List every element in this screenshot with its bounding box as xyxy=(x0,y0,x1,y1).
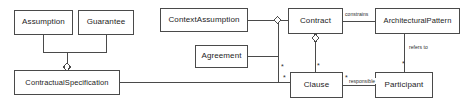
class-label-contract: Contract xyxy=(300,17,331,25)
aggregation-diamond-contract-clause xyxy=(312,34,319,42)
class-label-agreement: Agreement xyxy=(201,52,241,60)
edge-label-responsible: responsible xyxy=(348,78,376,84)
class-label-guarantee: Guarantee xyxy=(87,18,126,26)
class-box-architectural-pattern[interactable]: ArchitecturalPattern xyxy=(375,8,460,34)
class-label-participant: Participant xyxy=(385,81,424,89)
class-box-assumption[interactable]: Assumption xyxy=(14,10,73,35)
edge-label-refers-to: refers to xyxy=(408,44,429,50)
class-box-contract[interactable]: Contract xyxy=(288,8,343,34)
multiplicity-clause-top: * xyxy=(317,62,320,69)
uml-class-diagram: Assumption Guarantee ContextAssumption C… xyxy=(0,0,465,108)
multiplicity-participant-top: * xyxy=(402,60,405,67)
class-label-assumption: Assumption xyxy=(22,18,65,26)
class-label-clause: Clause xyxy=(304,81,330,89)
class-box-guarantee[interactable]: Guarantee xyxy=(78,10,134,35)
class-box-context-assumption[interactable]: ContextAssumption xyxy=(160,8,248,32)
class-box-participant[interactable]: Participant xyxy=(375,72,433,98)
multiplicity-agreement-bus: * xyxy=(281,63,284,70)
aggregation-diamond-contract-left xyxy=(274,17,281,24)
edge-label-constrains: constrains xyxy=(344,11,369,17)
class-box-contractual-specification[interactable]: ContractualSpecification xyxy=(14,70,120,95)
multiplicity-clause-left: * xyxy=(283,74,286,81)
multiplicity-clause-right: * xyxy=(345,74,348,81)
class-label-architectural-pattern: ArchitecturalPattern xyxy=(384,17,452,25)
class-box-clause[interactable]: Clause xyxy=(290,72,343,98)
class-label-contractual-specification: ContractualSpecification xyxy=(25,79,108,87)
class-box-agreement[interactable]: Agreement xyxy=(195,45,248,68)
edge-assumption-guarantee-bus xyxy=(44,35,107,52)
class-label-context-assumption: ContextAssumption xyxy=(168,16,239,24)
